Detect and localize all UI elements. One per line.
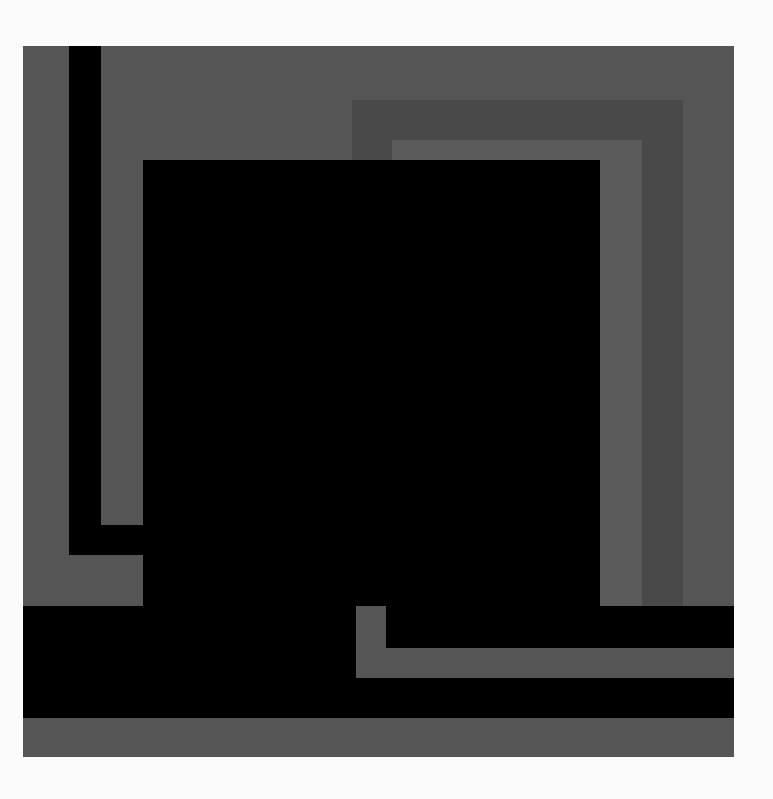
left-black-vertical-bar [69,46,101,555]
gray-l-horizontal [356,648,734,678]
left-black-horizontal-bar [69,525,143,555]
central-black-square [143,160,600,606]
